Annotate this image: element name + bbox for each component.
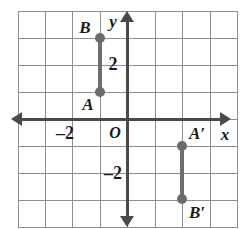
y-tick-label-neg2: –2: [104, 163, 122, 184]
y-tick-label-pos2: 2: [109, 54, 118, 75]
point-label-a: A: [82, 95, 93, 115]
y-axis-label: y: [109, 12, 117, 32]
x-tick-label-neg2: –2: [56, 123, 74, 144]
grid-layer: [0, 0, 241, 229]
y-axis-arrow-up-icon: [120, 11, 134, 22]
point-label-b-prime: B′: [189, 203, 205, 223]
grid-line-horizontal: [18, 227, 238, 228]
origin-label: O: [109, 124, 121, 142]
y-axis-arrow-down-icon: [120, 216, 134, 227]
x-axis-arrow-left-icon: [11, 112, 22, 126]
vertex-point-b-prime: [177, 194, 187, 204]
vertex-point-a: [95, 87, 105, 97]
point-label-a-prime: A′: [189, 124, 205, 144]
x-axis: [22, 118, 220, 121]
coordinate-plane-figure: B A A′ B′ y x O –2 2 –2: [0, 0, 241, 229]
vertex-point-a-prime: [177, 141, 187, 151]
segment-a-prime-b-prime: [180, 146, 184, 199]
x-axis-arrow-right-icon: [220, 112, 231, 126]
y-axis: [126, 22, 129, 216]
point-label-b: B: [79, 18, 90, 38]
segment-ab: [98, 38, 102, 92]
x-axis-label: x: [221, 125, 230, 145]
vertex-point-b: [95, 33, 105, 43]
